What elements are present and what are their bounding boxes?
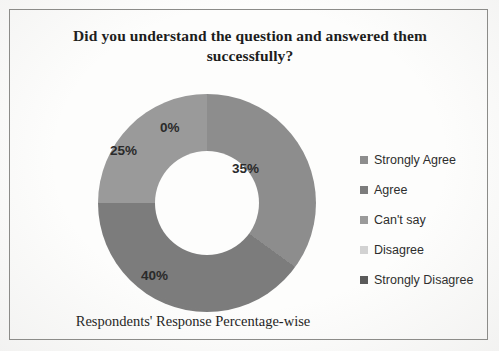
- chart-legend: Strongly AgreeAgreeCan't sayDisagreeStro…: [360, 145, 495, 295]
- legend-item[interactable]: Agree: [360, 175, 495, 205]
- legend-swatch-icon: [360, 246, 368, 254]
- legend-item-label: Disagree: [374, 243, 424, 257]
- data-label-agree: 40%: [141, 268, 168, 283]
- legend-item[interactable]: Strongly Agree: [360, 145, 495, 175]
- data-label-strongly-agree: 35%: [232, 161, 259, 176]
- legend-item-label: Strongly Agree: [374, 153, 456, 167]
- legend-item-label: Agree: [374, 183, 407, 197]
- chart-frame: Did you understand the question and answ…: [9, 9, 488, 340]
- legend-swatch-icon: [360, 186, 368, 194]
- legend-item[interactable]: Disagree: [360, 235, 495, 265]
- legend-swatch-icon: [360, 156, 368, 164]
- legend-item-label: Can't say: [374, 213, 426, 227]
- donut-chart: [98, 94, 316, 312]
- data-label-cant-say-zero: 0%: [160, 120, 180, 135]
- legend-item-label: Strongly Disagree: [374, 273, 473, 287]
- data-label-cant-say: 25%: [110, 143, 137, 158]
- chart-caption: Respondents' Response Percentage-wise: [28, 313, 358, 330]
- chart-page: Did you understand the question and answ…: [0, 0, 499, 351]
- legend-item[interactable]: Can't say: [360, 205, 495, 235]
- legend-item[interactable]: Strongly Disagree: [360, 265, 495, 295]
- legend-swatch-icon: [360, 276, 368, 284]
- legend-swatch-icon: [360, 216, 368, 224]
- page-title: Did you understand the question and answ…: [40, 26, 460, 66]
